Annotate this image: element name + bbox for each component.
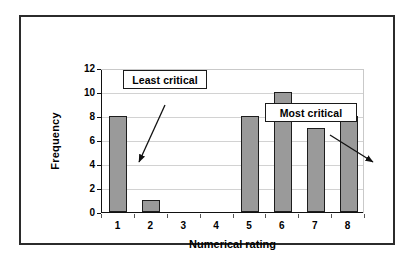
x-tick-label: 3 bbox=[168, 220, 198, 231]
x-tick-mark bbox=[265, 214, 266, 218]
gridline bbox=[102, 165, 364, 166]
bar bbox=[307, 128, 325, 212]
y-tick-mark bbox=[97, 189, 101, 190]
y-tick-mark bbox=[97, 117, 101, 118]
x-tick-mark bbox=[364, 214, 365, 218]
gridline bbox=[102, 189, 364, 190]
annotation-least-critical: Least critical bbox=[123, 70, 207, 89]
plot-area bbox=[101, 69, 364, 213]
chart-screenshot: Frequency 024681012 12345678 Numerical r… bbox=[0, 0, 412, 261]
annotation-most-critical: Most critical bbox=[265, 103, 357, 122]
x-tick-mark bbox=[167, 214, 168, 218]
x-tick-label: 2 bbox=[135, 220, 165, 231]
x-tick-label: 5 bbox=[234, 220, 264, 231]
bar bbox=[109, 116, 127, 212]
y-tick-label: 6 bbox=[69, 136, 95, 146]
y-tick-mark bbox=[97, 165, 101, 166]
gridline bbox=[102, 141, 364, 142]
y-tick-label: 12 bbox=[69, 64, 95, 74]
x-tick-label: 1 bbox=[102, 220, 132, 231]
y-tick-label: 4 bbox=[69, 160, 95, 170]
gridline bbox=[102, 93, 364, 94]
x-axis-title: Numerical rating bbox=[101, 238, 364, 250]
figure-frame: Frequency 024681012 12345678 Numerical r… bbox=[19, 15, 395, 245]
y-tick-mark bbox=[97, 69, 101, 70]
bar bbox=[340, 116, 358, 212]
y-tick-mark bbox=[97, 141, 101, 142]
x-tick-mark bbox=[233, 214, 234, 218]
x-tick-label: 4 bbox=[201, 220, 231, 231]
x-tick-label: 6 bbox=[267, 220, 297, 231]
y-tick-label: 0 bbox=[69, 208, 95, 218]
x-tick-mark bbox=[134, 214, 135, 218]
x-tick-mark bbox=[200, 214, 201, 218]
bar bbox=[241, 116, 259, 212]
x-tick-label: 7 bbox=[300, 220, 330, 231]
y-tick-label: 10 bbox=[69, 88, 95, 98]
y-tick-label: 8 bbox=[69, 112, 95, 122]
x-tick-label: 8 bbox=[333, 220, 363, 231]
x-tick-mark bbox=[331, 214, 332, 218]
y-tick-mark bbox=[97, 93, 101, 94]
bar bbox=[142, 200, 160, 212]
x-tick-mark bbox=[298, 214, 299, 218]
y-tick-label: 2 bbox=[69, 184, 95, 194]
x-tick-mark bbox=[101, 214, 102, 218]
y-axis-title: Frequency bbox=[48, 69, 62, 213]
